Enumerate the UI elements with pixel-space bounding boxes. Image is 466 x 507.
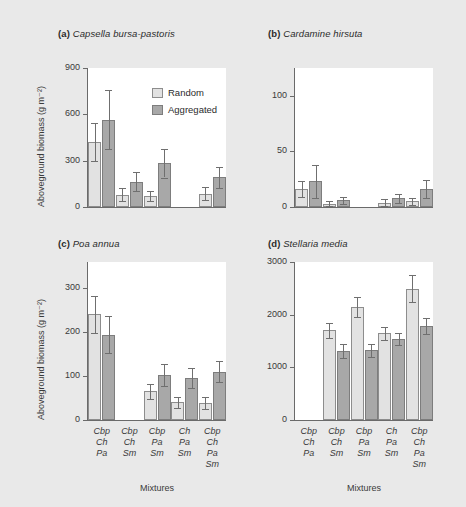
panel-a-ytick-600 [83, 114, 87, 115]
errorbar-cap-top-b-g0-1 [312, 165, 319, 166]
panel-b-x-axis [294, 207, 433, 208]
panel-a-yticklabel-300: 300 [46, 155, 80, 165]
panel-a-yticklabel-0: 0 [46, 201, 80, 211]
errorbar-cap-bottom-d-g2-0 [354, 317, 361, 318]
panel-d-yticklabel-1000: 1000 [253, 361, 287, 371]
panel-c-ytick-300 [83, 288, 87, 289]
errorbar-cap-bottom-a-g4-1 [216, 188, 223, 189]
xtick-line: Pa [192, 448, 232, 459]
errorbar-cap-top-c-g0-1 [105, 316, 112, 317]
panel-b-letter: (b) [268, 28, 280, 39]
errorbar-cap-bottom-d-g4-1 [423, 334, 430, 335]
panel-c-yticklabel-100: 100 [46, 370, 80, 380]
errorbar-c-g0-random [95, 296, 96, 333]
panel-d-ytick-1000 [290, 367, 294, 368]
panel-d-title: (d) Stellaria media [268, 238, 348, 249]
errorbar-cap-top-b-g3-0 [381, 199, 388, 200]
errorbar-cap-bottom-c-g2-1 [161, 386, 168, 387]
errorbar-cap-bottom-a-g1-0 [119, 201, 126, 202]
errorbar-cap-top-b-g1-0 [326, 201, 333, 202]
errorbar-cap-top-a-g1-0 [119, 188, 126, 189]
panel-d-letter: (d) [268, 238, 280, 249]
errorbar-cap-bottom-d-g1-0 [326, 338, 333, 339]
errorbar-cap-bottom-c-g0-1 [105, 353, 112, 354]
xtick-group-d-4: CbpChPaSm [399, 426, 439, 470]
errorbar-cap-top-c-g2-1 [161, 364, 168, 365]
panel-a-title: (a) Capsella bursa-pastoris [58, 28, 175, 39]
panel-a-ytick-900 [83, 68, 87, 69]
errorbar-cap-top-a-g0-0 [91, 123, 98, 124]
errorbar-d-g1-random [329, 323, 330, 338]
errorbar-b-g3-aggregated [399, 194, 400, 203]
errorbar-cap-bottom-d-g4-0 [409, 302, 416, 303]
errorbar-cap-top-b-g0-0 [298, 181, 305, 182]
errorbar-cap-top-c-g3-1 [188, 368, 195, 369]
errorbar-cap-top-c-g4-1 [216, 361, 223, 362]
errorbar-c-g2-aggregated [164, 364, 165, 386]
errorbar-cap-bottom-b-g1-0 [326, 206, 333, 207]
errorbar-cap-bottom-b-g1-1 [340, 204, 347, 205]
panel-a-ytick-300 [83, 161, 87, 162]
errorbar-b-g0-aggregated [316, 165, 317, 198]
panel-c-x-axis [87, 420, 226, 421]
legend-label-random: Random [168, 87, 204, 98]
errorbar-cap-top-d-g1-1 [340, 344, 347, 345]
xtick-group-c-4: CbpChPaSm [192, 426, 232, 470]
panel-a-ylabel: Aboveground biomass (g m⁻²) [36, 86, 46, 207]
errorbar-cap-top-a-g2-0 [147, 191, 154, 192]
errorbar-b-g0-random [302, 181, 303, 197]
xtick-line: Ch [399, 437, 439, 448]
errorbar-d-g2-random [357, 297, 358, 316]
errorbar-c-g3-random [178, 397, 179, 408]
errorbar-cap-top-c-g2-0 [147, 384, 154, 385]
xtick-line: Sm [399, 459, 439, 470]
errorbar-a-g2-random [150, 191, 151, 201]
errorbar-a-g4-random [205, 187, 206, 200]
legend-label-aggregated: Aggregated [168, 104, 217, 115]
errorbar-cap-bottom-d-g2-1 [368, 357, 375, 358]
xtick-line: Cbp [399, 426, 439, 437]
panel-d-y-axis [294, 262, 295, 421]
errorbar-cap-top-b-g4-1 [423, 180, 430, 181]
errorbar-a-g0-aggregated [109, 90, 110, 149]
errorbar-a-g0-random [95, 123, 96, 162]
panel-a-ytick-0 [83, 207, 87, 208]
errorbar-cap-top-d-g3-1 [395, 333, 402, 334]
bar-d-g1-aggregated [337, 351, 350, 420]
errorbar-cap-top-c-g0-0 [91, 296, 98, 297]
panel-d-x-axis [294, 420, 433, 421]
errorbar-c-g2-random [150, 384, 151, 400]
errorbar-cap-bottom-a-g2-0 [147, 201, 154, 202]
bar-d-g3-random [378, 333, 391, 420]
errorbar-cap-bottom-c-g4-1 [216, 382, 223, 383]
errorbar-cap-bottom-a-g2-1 [161, 178, 168, 179]
errorbar-cap-top-b-g1-1 [340, 197, 347, 198]
panel-a-x-axis [87, 207, 226, 208]
errorbar-b-g3-random [385, 199, 386, 206]
errorbar-cap-bottom-b-g0-0 [298, 197, 305, 198]
xtick-line: Sm [192, 459, 232, 470]
panel-d-yticklabel-3000: 3000 [253, 256, 287, 266]
errorbar-cap-bottom-c-g4-0 [202, 409, 209, 410]
panel-a-letter: (a) [58, 28, 70, 39]
errorbar-cap-top-b-g3-1 [395, 194, 402, 195]
errorbar-cap-bottom-d-g3-1 [395, 345, 402, 346]
errorbar-cap-bottom-b-g3-0 [381, 206, 388, 207]
errorbar-cap-top-d-g3-0 [381, 327, 388, 328]
panel-d-yticklabel-0: 0 [253, 414, 287, 424]
errorbar-cap-bottom-a-g1-1 [133, 191, 140, 192]
panel-a-yticklabel-900: 900 [46, 62, 80, 72]
errorbar-a-g4-aggregated [219, 167, 220, 188]
panel-b-title: (b) Cardamine hirsuta [268, 28, 363, 39]
errorbar-c-g3-aggregated [192, 368, 193, 388]
errorbar-cap-top-d-g2-0 [354, 297, 361, 298]
errorbar-cap-bottom-d-g1-1 [340, 358, 347, 359]
errorbar-cap-bottom-b-g4-0 [409, 205, 416, 206]
errorbar-cap-top-a-g4-1 [216, 167, 223, 168]
bar-d-g1-random [323, 330, 336, 420]
panel-c-ytick-100 [83, 376, 87, 377]
legend-swatch-aggregated-icon [152, 105, 163, 115]
errorbar-cap-top-d-g2-1 [368, 344, 375, 345]
errorbar-b-g1-aggregated [343, 197, 344, 204]
bar-d-g4-random [406, 289, 419, 420]
